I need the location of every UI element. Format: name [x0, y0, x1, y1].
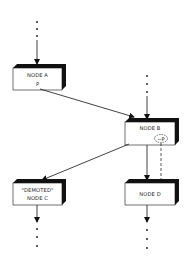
node-a[interactable]: NODE A P — [13, 64, 66, 90]
node-b-annotation: ~P — [157, 136, 165, 142]
node-c[interactable]: "DEMOTED" NODE C — [13, 179, 66, 205]
node-b-label: NODE B — [139, 125, 160, 131]
hierarchy-diagram: NODE A P NODE B ~P "DEMOTED" NODE C NODE… — [0, 0, 188, 265]
continuation-dots-above-a — [36, 21, 38, 37]
continuation-dots-below-c — [36, 228, 38, 247]
node-d-label: NODE D — [139, 191, 160, 197]
node-a-predicate: P — [36, 81, 39, 87]
continuation-dots-below-d — [146, 229, 148, 249]
edge-b-to-c — [42, 144, 129, 180]
node-c-label: NODE C — [27, 195, 48, 201]
node-c-demoted-label: "DEMOTED" — [22, 187, 54, 193]
continuation-dots-above-b — [146, 75, 148, 93]
node-b[interactable]: NODE B ~P — [125, 118, 179, 145]
edge-a-to-b — [40, 89, 134, 117]
node-a-label: NODE A — [27, 72, 48, 78]
node-d[interactable]: NODE D — [125, 179, 179, 205]
